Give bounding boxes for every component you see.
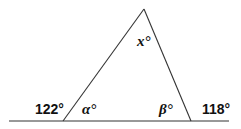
left-side: [63, 9, 144, 121]
triangle-diagram: x° α° β° 122° 118°: [0, 0, 241, 129]
left-interior-angle-label: α°: [82, 101, 96, 117]
apex-angle-label: x°: [136, 33, 151, 49]
right-interior-angle-label: β°: [158, 101, 173, 117]
right-exterior-angle-label: 118°: [202, 101, 230, 117]
left-exterior-angle-label: 122°: [35, 101, 64, 117]
